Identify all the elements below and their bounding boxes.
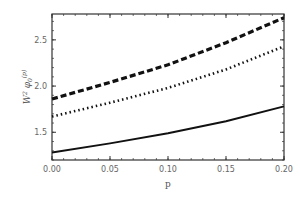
y-axis-label: W2 φ0(p) <box>20 69 33 104</box>
x-tick-label: 0.15 <box>217 165 235 174</box>
chart: 0.000.050.100.150.201.52.02.5 p W2 φ0(p) <box>0 0 300 200</box>
series-solid <box>52 106 284 152</box>
plot-frame <box>52 14 284 160</box>
x-tick-label: 0.00 <box>43 165 61 174</box>
y-tick-label: 2.5 <box>34 36 47 45</box>
series-dotted <box>52 46 284 116</box>
x-tick-label: 0.20 <box>275 165 293 174</box>
svg-text:W2 φ0(p): W2 φ0(p) <box>20 69 33 104</box>
x-axis-label: p <box>165 179 171 189</box>
x-tick-label: 0.05 <box>101 165 119 174</box>
x-tick-label: 0.10 <box>159 165 177 174</box>
series-dashed <box>52 18 284 99</box>
y-tick-label: 2.0 <box>34 82 47 91</box>
data-lines <box>52 18 284 153</box>
y-tick-label: 1.5 <box>34 128 47 137</box>
